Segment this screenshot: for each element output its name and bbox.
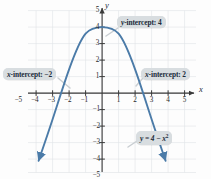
callout-y-intercept-text: -intercept: 4 [124, 18, 161, 27]
callout-x-intercept-left: x-intercept: −2 [3, 68, 56, 80]
y-tick-label: −5 [93, 172, 101, 179]
x-tick-label: 3 [150, 97, 154, 104]
callout-equation-exponent: 2 [166, 133, 169, 139]
callout-x-intercept-left-text: -intercept: −2 [11, 70, 52, 79]
x-axis-label: x [199, 84, 203, 94]
y-tick-label: −1 [93, 106, 101, 113]
y-tick-label: 3 [96, 40, 100, 47]
callout-equation-text: y = 4 − x [140, 134, 166, 143]
x-tick-label: 2 [133, 97, 137, 104]
callout-equation: y = 4 − x2 [136, 131, 172, 145]
x-tick-label: 1 [117, 97, 121, 104]
graph-figure: y-intercept: 4 x-intercept: −2 x-interce… [0, 0, 211, 179]
callout-y-intercept: y-intercept: 4 [117, 16, 166, 28]
y-tick-label: 5 [96, 7, 100, 14]
y-tick-label: −3 [93, 139, 101, 146]
x-tick-label: 5 [183, 97, 187, 104]
y-tick-label: 2 [96, 57, 100, 64]
callout-x-intercept-right-text: -intercept: 2 [149, 70, 186, 79]
x-tick-label: −2 [64, 97, 72, 104]
callout-x-intercept-right: x-intercept: 2 [141, 68, 190, 80]
y-tick-label: −4 [93, 156, 101, 163]
y-axis-label: y [105, 0, 109, 10]
y-tick-label: 1 [96, 73, 100, 80]
parabola-plot [0, 0, 211, 179]
x-tick-label: −3 [47, 97, 55, 104]
x-tick-label: −4 [31, 97, 39, 104]
y-tick-label: 4 [96, 24, 100, 31]
x-tick-label: 4 [166, 97, 170, 104]
y-tick-label: −2 [93, 123, 101, 130]
x-tick-label: −1 [80, 97, 88, 104]
x-tick-label: −5 [14, 97, 22, 104]
